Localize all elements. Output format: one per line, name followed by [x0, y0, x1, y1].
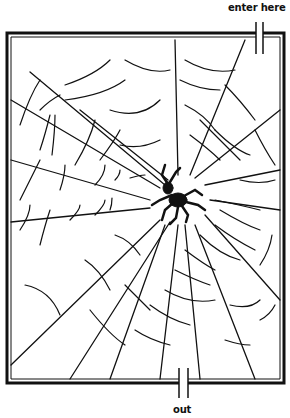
web-arcs — [20, 60, 275, 345]
web-spokes — [11, 40, 280, 379]
exit-gate — [179, 368, 188, 398]
entrance-gate — [256, 22, 263, 54]
maze-board[interactable] — [0, 0, 290, 418]
